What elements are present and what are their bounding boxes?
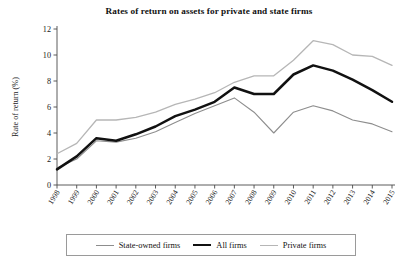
y-tick-label: 2 — [47, 155, 51, 164]
legend-label-all-firms: All firms — [216, 241, 246, 250]
chart-plot-area: 024681012 199819992000200120022003200420… — [0, 0, 418, 263]
x-tick-label: 1999 — [66, 188, 82, 206]
x-tick-label: 2013 — [342, 188, 358, 206]
x-tick-label: 1998 — [46, 188, 62, 206]
x-tick-label: 2005 — [184, 188, 200, 206]
x-axis: 1998199920002001200220032004200520062007… — [46, 185, 397, 206]
x-tick-label: 2002 — [125, 188, 141, 206]
x-tick-label: 2006 — [204, 188, 220, 206]
legend-item-private-firms: Private firms — [260, 241, 327, 250]
data-series-group — [57, 41, 392, 170]
y-tick-label: 10 — [43, 51, 51, 60]
legend-label-private-firms: Private firms — [283, 241, 327, 250]
x-tick-label: 2001 — [105, 188, 121, 206]
y-tick-label: 0 — [47, 181, 51, 190]
y-tick-label: 12 — [43, 25, 51, 34]
legend-item-state-owned-firms: State-owned firms — [96, 241, 181, 250]
chart-legend: State-owned firms All firms Private firm… — [66, 234, 356, 256]
y-tick-label: 4 — [47, 129, 51, 138]
legend-swatch-state-owned-firms — [96, 245, 114, 246]
series-line-state-owned-firms — [57, 98, 392, 168]
x-tick-label: 2009 — [263, 188, 279, 206]
series-line-private-firms — [57, 41, 392, 154]
x-tick-label: 2011 — [302, 188, 318, 206]
y-axis-label: Rate of return (%) — [11, 77, 20, 137]
legend-swatch-all-firms — [193, 244, 211, 246]
legend-label-state-owned-firms: State-owned firms — [119, 241, 181, 250]
legend-swatch-private-firms — [260, 245, 278, 246]
x-tick-label: 2012 — [322, 188, 338, 206]
x-tick-label: 2008 — [243, 188, 259, 206]
chart-figure: Rates of return on assets for private an… — [0, 0, 418, 263]
x-tick-label: 2003 — [145, 188, 161, 206]
x-tick-label: 2014 — [361, 188, 377, 206]
x-tick-label: 2007 — [223, 188, 239, 206]
legend-item-all-firms: All firms — [193, 241, 246, 250]
x-tick-label: 2000 — [85, 188, 101, 206]
x-tick-label: 2004 — [164, 188, 180, 206]
x-tick-label: 2015 — [381, 188, 397, 206]
series-line-all-firms — [57, 65, 392, 169]
y-tick-label: 6 — [47, 103, 51, 112]
y-tick-label: 8 — [47, 77, 51, 86]
y-axis-title: Rate of return (%) — [11, 77, 20, 137]
y-axis: 024681012 — [43, 25, 57, 190]
x-tick-label: 2010 — [282, 188, 298, 206]
